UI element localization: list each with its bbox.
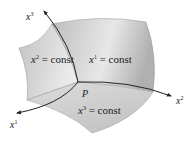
coordinate-surfaces-diagram: x3 x1 x2 x2 = const x1 = const x3 = cons… [0,0,192,143]
x2-axis-label: x2 [175,95,183,106]
x3-axis-label: x3 [25,11,33,22]
point-p-label: P [81,88,88,99]
x1-axis-label: x1 [9,119,17,130]
